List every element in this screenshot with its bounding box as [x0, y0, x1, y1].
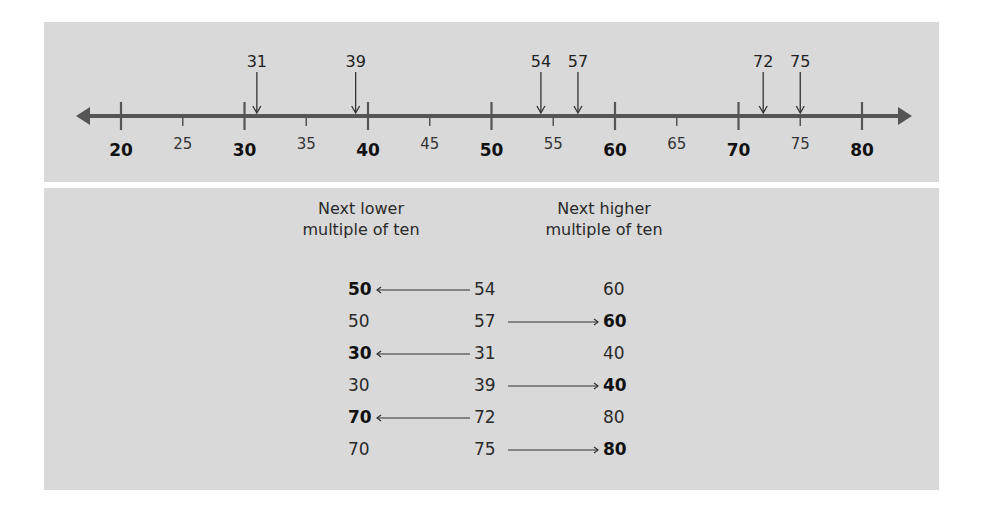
- left-arrowhead-icon: [76, 107, 90, 125]
- number-to-round: 54: [474, 279, 496, 299]
- minor-tick-label: 65: [667, 135, 686, 153]
- marked-point-label: 57: [568, 52, 588, 71]
- marked-point-label: 54: [531, 52, 551, 71]
- marked-point-label: 31: [247, 52, 267, 71]
- major-tick-label: 60: [603, 140, 627, 160]
- header-next-higher: Next higher multiple of ten: [504, 198, 704, 240]
- marked-point-label: 75: [790, 52, 810, 71]
- arrow-right-icon: [594, 319, 598, 325]
- right-arrowhead-icon: [898, 107, 912, 125]
- minor-tick-label: 75: [791, 135, 810, 153]
- arrow-left-icon: [377, 415, 381, 421]
- arrow-left-icon: [377, 287, 381, 293]
- arrow-right-icon: [594, 383, 598, 389]
- next-higher-value: 40: [603, 375, 627, 395]
- minor-tick-label: 25: [173, 135, 192, 153]
- next-higher-value: 80: [603, 407, 625, 427]
- next-lower-value: 70: [348, 407, 372, 427]
- header-next-higher-line1: Next higher: [504, 198, 704, 219]
- header-next-lower-line2: multiple of ten: [261, 219, 461, 240]
- minor-tick-label: 35: [297, 135, 316, 153]
- minor-tick-label: 55: [544, 135, 563, 153]
- marked-point-label: 72: [753, 52, 773, 71]
- number-to-round: 39: [474, 375, 496, 395]
- next-higher-value: 60: [603, 311, 627, 331]
- major-tick-label: 30: [233, 140, 257, 160]
- number-line: 20304050607080253545556575313954577275: [44, 22, 939, 182]
- next-higher-value: 40: [603, 343, 625, 363]
- marked-point-label: 39: [345, 52, 365, 71]
- rounding-table-panel: Next lower multiple of ten Next higher m…: [44, 188, 939, 490]
- number-to-round: 57: [474, 311, 496, 331]
- next-lower-value: 70: [348, 439, 370, 459]
- number-to-round: 75: [474, 439, 496, 459]
- number-to-round: 72: [474, 407, 496, 427]
- next-lower-value: 50: [348, 279, 372, 299]
- arrow-right-icon: [594, 447, 598, 453]
- number-to-round: 31: [474, 343, 496, 363]
- major-tick-label: 20: [109, 140, 133, 160]
- arrow-left-icon: [377, 351, 381, 357]
- number-line-panel: 20304050607080253545556575313954577275: [44, 22, 939, 182]
- header-next-higher-line2: multiple of ten: [504, 219, 704, 240]
- minor-tick-label: 45: [420, 135, 439, 153]
- next-lower-value: 50: [348, 311, 370, 331]
- major-tick-label: 80: [850, 140, 874, 160]
- next-lower-value: 30: [348, 375, 370, 395]
- next-lower-value: 30: [348, 343, 372, 363]
- header-next-lower-line1: Next lower: [261, 198, 461, 219]
- next-higher-value: 60: [603, 279, 625, 299]
- major-tick-label: 50: [480, 140, 504, 160]
- header-next-lower: Next lower multiple of ten: [261, 198, 461, 240]
- major-tick-label: 40: [356, 140, 380, 160]
- major-tick-label: 70: [727, 140, 751, 160]
- next-higher-value: 80: [603, 439, 627, 459]
